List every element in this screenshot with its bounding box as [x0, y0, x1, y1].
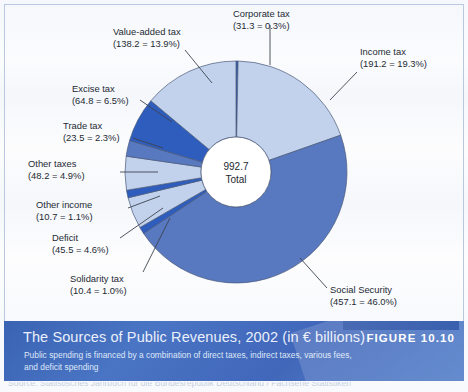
- slice-label-solidarity-tax: Solidarity tax (10.4 = 1.0%): [70, 273, 127, 296]
- figure-caption-title: The Sources of Public Revenues, 2002 (in…: [23, 329, 365, 345]
- slice-label-social-security-value: (457.1 = 46.0%): [330, 296, 397, 308]
- slice-label-value-added-tax-name: Value-added tax: [113, 26, 181, 38]
- figure-caption-subtitle: Public spending is financed by a combina…: [24, 349, 354, 374]
- slice-label-solidarity-tax-value: (10.4 = 1.0%): [70, 285, 127, 297]
- slice-label-other-income-name: Other income: [36, 199, 93, 211]
- slice-label-value-added-tax-value: (138.2 = 13.9%): [113, 38, 181, 50]
- slice-label-income-tax-value: (191.2 = 19.3%): [360, 58, 427, 70]
- slice-label-other-taxes-name: Other taxes: [28, 158, 85, 170]
- slice-label-solidarity-tax-name: Solidarity tax: [70, 273, 127, 285]
- slice-label-excise-tax: Excise tax (64.8 = 6.5%): [72, 83, 129, 106]
- slice-label-trade-tax: Trade tax (23.5 = 2.3%): [63, 120, 120, 143]
- slice-label-corporate-tax-value: (31.3 = 0.3%): [233, 20, 290, 32]
- slice-label-income-tax-name: Income tax: [360, 46, 427, 58]
- slice-label-corporate-tax: Corporate tax (31.3 = 0.3%): [233, 8, 290, 31]
- slice-label-excise-tax-name: Excise tax: [72, 83, 129, 95]
- slice-label-other-income: Other income (10.7 = 1.1%): [36, 199, 93, 222]
- figure-source-note: Source: Statistisches Jahrbuch für die B…: [8, 382, 460, 392]
- slice-label-deficit-value: (45.5 = 4.6%): [52, 244, 109, 256]
- slice-label-trade-tax-name: Trade tax: [63, 120, 120, 132]
- center-total-value: 992.7: [208, 161, 264, 174]
- figure-source-note-text: Source: Statistisches Jahrbuch für die B…: [8, 382, 460, 388]
- slice-label-deficit: Deficit (45.5 = 4.6%): [52, 232, 109, 255]
- slice-label-other-income-value: (10.7 = 1.1%): [36, 211, 93, 223]
- slice-label-income-tax: Income tax (191.2 = 19.3%): [360, 46, 427, 69]
- slice-label-value-added-tax: Value-added tax (138.2 = 13.9%): [113, 26, 181, 49]
- leader-line-social-security: [300, 258, 327, 288]
- slice-label-excise-tax-value: (64.8 = 6.5%): [72, 95, 129, 107]
- center-total-label: Total: [208, 174, 264, 187]
- slice-label-trade-tax-value: (23.5 = 2.3%): [63, 132, 120, 144]
- slice-label-other-taxes-value: (48.2 = 4.9%): [28, 170, 85, 182]
- figure-caption-band: FIGURE 10.10 The Sources of Public Reven…: [4, 321, 464, 381]
- slice-label-other-taxes: Other taxes (48.2 = 4.9%): [28, 158, 85, 181]
- slice-label-deficit-name: Deficit: [52, 232, 109, 244]
- figure-root: 992.7 Total Corporate tax (31.3 = 0.3%) …: [0, 0, 468, 392]
- slice-label-social-security: Social Security (457.1 = 46.0%): [330, 284, 397, 307]
- leader-line-income-tax: [330, 72, 357, 100]
- slice-label-corporate-tax-name: Corporate tax: [233, 8, 290, 20]
- figure-badge-label: FIGURE 10.10: [366, 332, 455, 344]
- slice-label-social-security-name: Social Security: [330, 284, 397, 296]
- center-total: 992.7 Total: [208, 161, 264, 186]
